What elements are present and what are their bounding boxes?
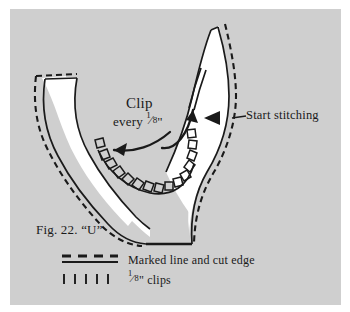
fabric-piece xyxy=(42,26,229,237)
fraction-denominator: 8 xyxy=(135,274,139,283)
clip-interval-prefix: every xyxy=(113,114,146,129)
legend-line-swatch xyxy=(62,256,118,262)
clip-interval-suffix: " xyxy=(157,114,163,129)
legend-clip-swatch xyxy=(64,274,108,284)
figure-container: Clip every 1⁄8" Start stitching Fig. 22.… xyxy=(0,0,350,312)
legend-label-marked-line: Marked line and cut edge xyxy=(128,253,255,268)
clip-interval-label: every 1⁄8" xyxy=(113,113,163,130)
figure-caption: Fig. 22. “U” xyxy=(36,222,103,238)
fraction-slash: ⁄ xyxy=(150,113,152,128)
fraction-one-eighth: 1⁄8 xyxy=(146,113,157,126)
curved-arrow-left-icon xyxy=(114,132,170,156)
fraction-denominator: 8 xyxy=(153,115,158,125)
start-stitching-label: Start stitching xyxy=(246,108,319,123)
fraction-one-eighth: 1⁄8 xyxy=(128,272,139,284)
legend-label-clips: 1⁄8" clips xyxy=(128,272,171,288)
fraction-slash: ⁄ xyxy=(132,272,134,284)
legend-clips-suffix: " clips xyxy=(139,273,171,287)
